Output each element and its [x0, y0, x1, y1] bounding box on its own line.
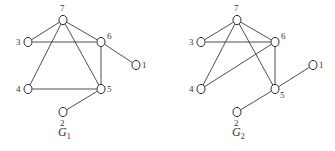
node-6 — [97, 37, 105, 46]
edge-6-1 — [105, 44, 132, 62]
node-2 — [233, 107, 241, 116]
edge-7-3 — [205, 22, 233, 39]
node-7 — [233, 15, 241, 24]
edge-5-2 — [241, 91, 271, 109]
node-2 — [59, 107, 67, 116]
node-4 — [24, 84, 32, 93]
node-5 — [97, 84, 105, 93]
graph-label: G2 — [232, 125, 245, 141]
node-label-6: 6 — [107, 31, 112, 41]
graph-subscript: 2 — [241, 132, 245, 141]
edge-7-5 — [65, 24, 99, 85]
edges — [203, 22, 309, 109]
graph-name: G — [58, 125, 67, 139]
node-label-5: 5 — [280, 90, 285, 100]
node-label-7: 7 — [60, 3, 65, 13]
graph-label: G1 — [58, 125, 71, 141]
edge-7-4 — [203, 24, 235, 85]
graph-name: G — [232, 125, 241, 139]
nodes: 7361452 — [189, 3, 324, 128]
node-label-1: 1 — [319, 60, 324, 70]
edge-5-2 — [67, 91, 97, 109]
node-5 — [271, 84, 279, 93]
node-3 — [197, 37, 205, 46]
edge-7-4 — [30, 24, 61, 85]
node-label-3: 3 — [16, 37, 21, 47]
graph-g1: 7361452 G1 — [16, 3, 147, 141]
node-label-4: 4 — [16, 84, 21, 94]
node-7 — [59, 15, 67, 24]
node-label-6: 6 — [281, 31, 286, 41]
node-1 — [132, 60, 140, 69]
edges — [30, 22, 132, 109]
graph-g2: 7361452 G2 — [189, 3, 324, 141]
node-label-4: 4 — [189, 84, 194, 94]
node-3 — [24, 37, 32, 46]
graph-figure: 7361452 G1 7361452 G2 — [0, 0, 335, 151]
node-label-3: 3 — [189, 37, 194, 47]
edge-7-3 — [32, 22, 59, 39]
node-label-5: 5 — [107, 84, 112, 94]
nodes: 7361452 — [16, 3, 147, 128]
node-label-1: 1 — [142, 60, 147, 70]
edge-6-4 — [205, 44, 271, 86]
graph-subscript: 1 — [67, 132, 71, 141]
edge-7-6 — [67, 22, 97, 39]
node-1 — [309, 60, 317, 69]
edge-5-1 — [279, 67, 309, 86]
node-6 — [271, 37, 279, 46]
edge-7-6 — [241, 22, 271, 39]
node-4 — [197, 84, 205, 93]
node-label-7: 7 — [234, 3, 239, 13]
